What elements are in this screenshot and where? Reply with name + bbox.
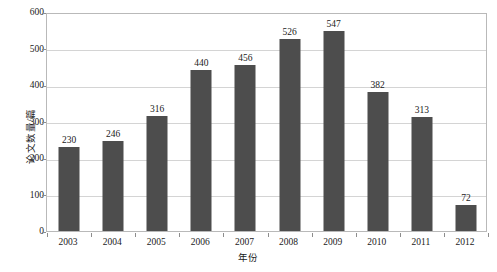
x-axis-tick-label: 2008 [267,237,311,247]
bar[interactable] [191,70,212,231]
x-axis-tick-label: 2009 [311,237,355,247]
x-axis-tick-label: 2003 [46,237,90,247]
x-axis-tick-label: 2010 [355,237,399,247]
bar[interactable] [59,147,80,231]
bar[interactable] [235,65,256,231]
bar-group[interactable]: 382 [356,14,400,231]
bar[interactable] [367,92,388,231]
y-axis-tick-label: 200 [4,154,44,164]
x-axis-tick-label: 2011 [399,237,443,247]
y-axis-tick-mark [42,86,46,87]
x-axis-tick-label: 2007 [222,237,266,247]
bar-group[interactable]: 440 [179,14,223,231]
y-axis-tick-mark [42,122,46,123]
y-axis-tick-mark [42,195,46,196]
x-axis-tick-label: 2006 [178,237,222,247]
y-axis-tick-label: 400 [4,81,44,91]
bar-chart: 论文数量/篇 23024631644045652654738231372 年份 … [0,0,497,272]
bar-group[interactable]: 316 [135,14,179,231]
x-axis-tick-label: 2004 [90,237,134,247]
y-axis-tick-label: 300 [4,118,44,128]
bar[interactable] [411,117,432,231]
y-axis-tick-mark [42,13,46,14]
y-axis-tick-label: 500 [4,45,44,55]
bar[interactable] [455,205,476,231]
bar-group[interactable]: 456 [223,14,267,231]
bar-value-label: 382 [371,80,385,90]
x-axis-title: 年份 [0,253,497,263]
y-axis-tick-label: 0 [4,227,44,237]
bar-value-label: 230 [62,135,76,145]
y-axis-tick-mark [42,49,46,50]
bar-group[interactable]: 246 [91,14,135,231]
bar[interactable] [323,31,344,231]
bar-value-label: 246 [106,129,120,139]
x-axis-tick-mark [488,233,489,237]
bar-value-label: 313 [415,105,429,115]
y-axis-tick-mark [42,232,46,233]
bar-group[interactable]: 526 [268,14,312,231]
bar-group[interactable]: 547 [312,14,356,231]
y-axis-tick-mark [42,159,46,160]
bar[interactable] [147,116,168,231]
bar-value-label: 526 [282,27,296,37]
x-axis-tick-label: 2005 [134,237,178,247]
y-axis-tick-label: 600 [4,8,44,18]
bar[interactable] [103,141,124,231]
plot-area: 23024631644045652654738231372 [46,13,487,232]
bar-value-label: 547 [327,19,341,29]
bar-value-label: 456 [238,53,252,63]
bar-group[interactable]: 313 [400,14,444,231]
x-axis-tick-label: 2012 [443,237,487,247]
bar-value-label: 440 [194,58,208,68]
y-axis-tick-label: 100 [4,191,44,201]
bar-group[interactable]: 230 [47,14,91,231]
bar-value-label: 316 [150,104,164,114]
bar[interactable] [279,39,300,231]
bar-group[interactable]: 72 [444,14,488,231]
bar-value-label: 72 [461,193,471,203]
